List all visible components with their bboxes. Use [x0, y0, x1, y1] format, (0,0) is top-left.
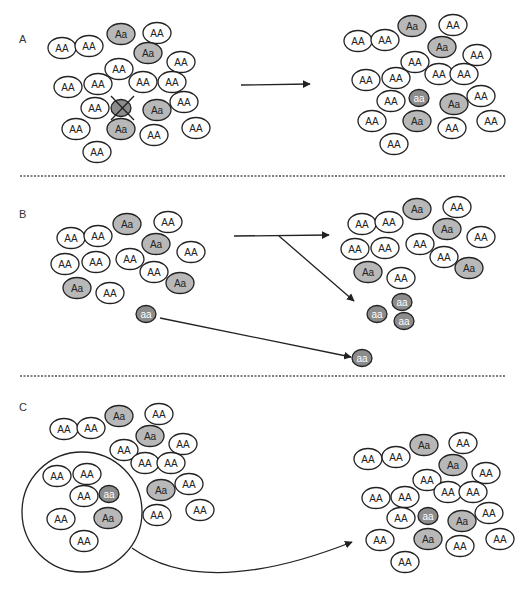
genotype-label: AA [82, 41, 96, 52]
genotype-label: Aa [71, 283, 84, 294]
genotype-label: AA [57, 424, 71, 435]
genotype-label: aa [356, 353, 368, 364]
genotype-label: AA [123, 254, 137, 265]
arrow-icon [241, 84, 310, 85]
genotype-label: Aa [456, 516, 469, 527]
individual-homozygous-dominant: AA [143, 505, 171, 526]
individual-homozygous-dominant: AA [362, 488, 390, 509]
genotype-label: aa [371, 309, 383, 320]
individual-homozygous-dominant: AA [143, 23, 171, 44]
individual-heterozygous: Aa [147, 480, 175, 501]
individual-heterozygous: Aa [440, 94, 468, 115]
genotype-label: aa [103, 489, 115, 500]
individual-heterozygous: Aa [455, 258, 483, 279]
genotype-label: AA [55, 43, 69, 54]
genotype-label: Aa [436, 42, 449, 53]
individual-homozygous-dominant: AA [446, 536, 474, 557]
individual-homozygous-dominant: AA [75, 36, 103, 57]
individual-homozygous-dominant: AA [48, 38, 76, 59]
individual-homozygous-recessive: aa [99, 486, 119, 503]
individual-homozygous-recessive: aa [418, 508, 438, 525]
curved-arrow-icon [132, 542, 352, 573]
individual-homozygous-dominant: AA [131, 453, 159, 474]
individual-homozygous-dominant: AA [375, 212, 403, 233]
individual-heterozygous: Aa [63, 278, 91, 299]
genotype-label: AA [64, 233, 78, 244]
individual-homozygous-dominant: AA [467, 227, 495, 248]
removed-individual [111, 96, 134, 120]
genotype-label: Aa [121, 219, 134, 230]
individual-homozygous-dominant: AA [62, 119, 90, 140]
individual-heterozygous: Aa [142, 234, 170, 255]
individual-heterozygous: Aa [113, 214, 141, 235]
individual-heterozygous: Aa [414, 529, 442, 550]
panels: AAaAAAAAAAaAAAAAAAAAAAAAAAaAAAAAaAAAAAAA… [19, 15, 514, 573]
genotype-label: Aa [411, 204, 424, 215]
individual-heterozygous: Aa [105, 406, 133, 427]
individual-homozygous-dominant: AA [54, 77, 82, 98]
genotype-label: AA [165, 77, 179, 88]
individual-homozygous-dominant: AA [459, 482, 487, 503]
genotype-label: AA [61, 82, 75, 93]
individual-homozygous-dominant: AA [352, 70, 380, 91]
individual-homozygous-dominant: AA [341, 239, 369, 260]
genotype-label: Aa [362, 267, 375, 278]
genotype-label: Aa [150, 239, 163, 250]
genotype-label: aa [398, 316, 410, 327]
individual-homozygous-dominant: AA [354, 449, 382, 470]
genotype-label: AA [394, 513, 408, 524]
individual-homozygous-dominant: AA [366, 530, 394, 551]
individual-homozygous-dominant: AA [83, 142, 111, 163]
genotype-label: AA [359, 75, 373, 86]
genotype-label: AA [474, 232, 488, 243]
genotype-label: AA [50, 471, 64, 482]
panel-b: BAaAAAAAAAaAAAAAAAAAAAaAAAaaaAaAAAAAAAaA… [19, 197, 495, 367]
genotype-label: aa [413, 93, 425, 104]
individual-homozygous-recessive: aa [367, 306, 387, 323]
genotype-label: aa [422, 511, 434, 522]
genotype-label: AA [84, 423, 98, 434]
genotype-label: AA [58, 259, 72, 270]
individual-heterozygous: Aa [403, 199, 431, 220]
genotype-label: AA [69, 124, 83, 135]
population-before: AaAAAAAAAaAAAAAAAAAAAaAAAaaa [51, 212, 205, 323]
genotype-label: AA [470, 50, 484, 61]
genotype-label: AA [389, 73, 403, 84]
individual-homozygous-recessive: aa [394, 313, 414, 330]
individual-homozygous-dominant: AA [380, 134, 408, 155]
genotype-label: AA [398, 557, 412, 568]
genotype-label: AA [90, 147, 104, 158]
individual-homozygous-dominant: AA [84, 226, 112, 247]
genotype-label: AA [413, 239, 427, 250]
individual-homozygous-dominant: AA [425, 64, 453, 85]
individual-homozygous-dominant: AA [169, 434, 197, 455]
individual-homozygous-dominant: AA [70, 486, 98, 507]
genotype-label: AA [484, 116, 498, 127]
population-after: AaAAAAAAAaAAAAAAAAAAAAAAaaAaAAAAAaAAAAAA [344, 15, 505, 155]
population-before: AaAAAAAAAaAAAAAAAAAAAAAAAaAAAAAaAAAAAA [48, 23, 210, 163]
genotype-label: AA [482, 508, 496, 519]
genotype-label: Aa [151, 105, 164, 116]
individual-homozygous-dominant: AA [77, 418, 105, 439]
genotype-label: AA [446, 20, 460, 31]
individual-homozygous-recessive: aa [352, 350, 372, 367]
genotype-label: AA [77, 491, 91, 502]
genotype-label: AA [466, 487, 480, 498]
genotype-label: Aa [418, 440, 431, 451]
individual-heterozygous: Aa [107, 119, 135, 140]
individual-homozygous-dominant: AA [81, 98, 109, 119]
individual-homozygous-dominant: AA [472, 463, 500, 484]
individual-heterozygous: Aa [448, 511, 476, 532]
individual-homozygous-recessive: aa [392, 294, 412, 311]
genotype-label: AA [152, 409, 166, 420]
panel-dividers [20, 176, 506, 376]
genotype-label: AA [138, 458, 152, 469]
panel-c: CAaAAAAAAAaAAAAAAAAAAAaAAAAAAAAAAaaAAAaA… [19, 401, 514, 573]
individual-homozygous-dominant: AA [140, 125, 168, 146]
arrow-icon [160, 318, 351, 357]
individual-heterozygous: Aa [136, 426, 164, 447]
individual-heterozygous: Aa [134, 43, 162, 64]
individual-homozygous-dominant: AA [51, 254, 79, 275]
genotype-label: AA [161, 217, 175, 228]
genotype-label: AA [351, 36, 365, 47]
